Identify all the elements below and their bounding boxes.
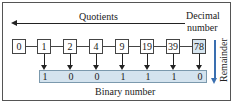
decimal-input-box: 78 xyxy=(192,39,206,54)
connector-line xyxy=(154,46,166,47)
quotient-box: 2 xyxy=(63,39,77,54)
quotient-box: 4 xyxy=(89,39,103,54)
decimal-label-line2: number xyxy=(187,22,218,33)
quotient-box: 19 xyxy=(140,39,154,54)
connector-line xyxy=(25,46,37,47)
binary-number-bar: 1 0 0 1 1 1 0 xyxy=(39,70,207,83)
connector-line xyxy=(77,46,89,47)
binary-digit: 0 xyxy=(64,71,78,82)
binary-digit: 1 xyxy=(116,71,130,82)
down-arrow-icon xyxy=(122,54,123,66)
binary-digit: 1 xyxy=(38,71,52,82)
binary-digit: 0 xyxy=(90,71,104,82)
connector-line xyxy=(129,46,140,47)
down-arrow-icon xyxy=(44,54,45,66)
quotient-box: 9 xyxy=(115,39,129,54)
connector-line xyxy=(180,46,192,47)
quotient-box: 1 xyxy=(37,39,51,54)
down-arrow-icon xyxy=(199,54,200,66)
quotient-box: 39 xyxy=(166,39,180,54)
binary-digit: 1 xyxy=(141,71,155,82)
down-arrow-icon xyxy=(96,54,97,66)
down-arrow-icon xyxy=(173,54,174,66)
down-arrow-icon xyxy=(70,54,71,66)
remainder-arrow-icon xyxy=(214,40,216,80)
connector-line xyxy=(103,46,115,47)
remainder-label: Remainder xyxy=(218,38,229,82)
quotients-label: Quotients xyxy=(79,11,118,22)
binary-digit: 1 xyxy=(167,71,181,82)
binary-number-label: Binary number xyxy=(95,86,155,97)
down-arrow-icon xyxy=(147,54,148,66)
binary-digit: 0 xyxy=(193,71,207,82)
quotients-arrow-icon xyxy=(13,23,185,24)
decimal-label-line1: Decimal xyxy=(186,10,220,21)
quotient-box: 0 xyxy=(12,39,26,54)
connector-line xyxy=(51,46,63,47)
